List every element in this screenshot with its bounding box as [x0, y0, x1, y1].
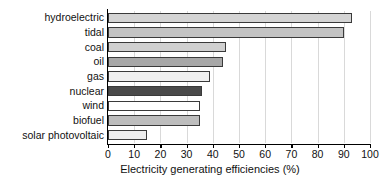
category-label: gas	[0, 71, 104, 82]
category-label: oil	[0, 56, 104, 67]
gridline	[370, 11, 371, 143]
bar-row	[108, 99, 370, 114]
bar-row	[108, 70, 370, 85]
bar-row	[108, 84, 370, 99]
bar-row	[108, 26, 370, 41]
category-labels: hydroelectrictidalcoaloilgasnuclearwindb…	[0, 11, 104, 143]
category-label: hydroelectric	[0, 12, 104, 23]
bar-coal	[108, 42, 226, 52]
bar-row	[108, 11, 370, 26]
category-label: wind	[0, 100, 104, 111]
bar-row	[108, 114, 370, 129]
bar-row	[108, 128, 370, 143]
bar-solar-photovoltaic	[108, 130, 147, 140]
x-axis-title: Electricity generating efficiencies (%)	[0, 163, 386, 175]
bar-biofuel	[108, 115, 200, 125]
bar-hydroelectric	[108, 13, 352, 23]
bars-group	[108, 11, 370, 143]
category-label: coal	[0, 42, 104, 53]
category-label: nuclear	[0, 86, 104, 97]
bar-row	[108, 40, 370, 55]
category-label: tidal	[0, 27, 104, 38]
bar-nuclear	[108, 86, 202, 96]
category-label: solar photovoltaic	[0, 130, 104, 141]
bar-gas	[108, 71, 210, 81]
bar-oil	[108, 57, 223, 67]
bar-chart: hydroelectrictidalcoaloilgasnuclearwindb…	[0, 0, 386, 185]
category-label: biofuel	[0, 115, 104, 126]
bar-wind	[108, 101, 200, 111]
bar-tidal	[108, 27, 344, 37]
x-axis-title-text: Electricity generating efficiencies (%)	[120, 163, 300, 175]
bar-row	[108, 55, 370, 70]
x-tick-label: 100	[355, 149, 385, 160]
